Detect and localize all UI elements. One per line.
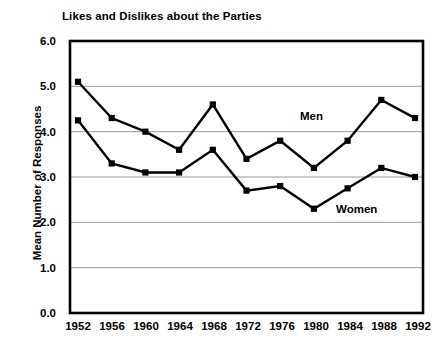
chart-figure: Likes and Dislikes about the Parties Mea… [0, 0, 442, 354]
plot-area [0, 0, 442, 354]
series-layer [75, 79, 418, 212]
